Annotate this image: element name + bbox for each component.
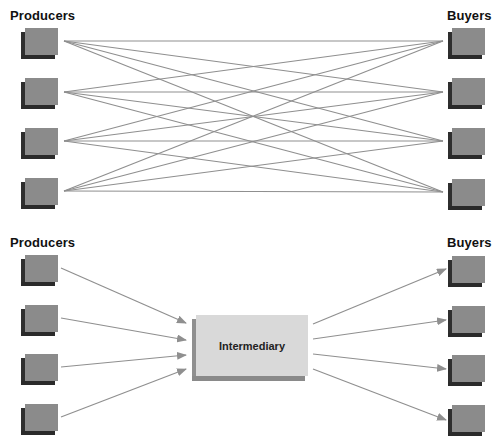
top-producer-4 [21, 178, 57, 208]
bottom-producer-1 [21, 255, 57, 285]
top-buyer-3 [448, 128, 484, 158]
bottom-buyer-2 [448, 306, 484, 336]
bottom-buyer-1 [448, 256, 484, 286]
top-buyer-4 [448, 179, 484, 209]
intermediary-box: Intermediary [192, 315, 308, 381]
top-buyer-1 [448, 28, 484, 58]
bottom-producer-2 [21, 305, 57, 335]
top-producer-2 [21, 78, 57, 108]
bottom-buyer-3 [448, 355, 484, 385]
top-producer-1 [21, 28, 57, 58]
bottom-producer-4 [21, 404, 57, 434]
intermediary-label: Intermediary [219, 340, 285, 352]
bottom-buyer-4 [448, 405, 484, 435]
bottom-producer-3 [21, 354, 57, 384]
direct-mesh [64, 41, 443, 192]
top-buyer-2 [448, 78, 484, 108]
top-producer-3 [21, 128, 57, 158]
